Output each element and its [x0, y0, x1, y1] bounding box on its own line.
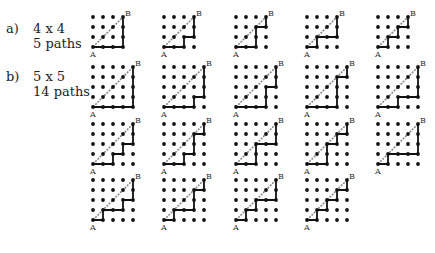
- grid-dot: [202, 218, 206, 222]
- grid-dot: [315, 45, 319, 49]
- grid-dot: [264, 105, 268, 109]
- grid-dot: [315, 95, 319, 99]
- grid-dot: [406, 152, 410, 156]
- start-point-label: A: [232, 223, 239, 232]
- grid-dot: [234, 122, 238, 126]
- grid-dot: [406, 132, 410, 136]
- lattice-grid-b-6: AB: [90, 121, 146, 177]
- grid-dot: [162, 95, 166, 99]
- grid-dot: [325, 15, 329, 19]
- grid-dot: [274, 95, 278, 99]
- grid-dot: [202, 75, 206, 79]
- grid-dot: [325, 35, 329, 39]
- grid-dot: [406, 45, 410, 49]
- grid-dot: [234, 25, 238, 29]
- grid-dot: [376, 75, 380, 79]
- grid-dot: [315, 162, 319, 166]
- grid-dot: [111, 35, 115, 39]
- grid-dot: [182, 178, 186, 182]
- grid-dot: [396, 132, 400, 136]
- grid-dot: [111, 122, 115, 126]
- grid-dot: [305, 142, 309, 146]
- grid-dot: [254, 208, 258, 212]
- grid-dot: [315, 35, 319, 39]
- grid-dot: [111, 105, 115, 109]
- grid-dot: [172, 178, 176, 182]
- grid-dot: [182, 188, 186, 192]
- grid-dot: [131, 142, 135, 146]
- grid-dot: [172, 188, 176, 192]
- start-point-label: A: [160, 110, 167, 119]
- grid-dot: [121, 218, 125, 222]
- grid-dot: [254, 218, 258, 222]
- grid-dot: [182, 122, 186, 126]
- grid-dot: [325, 105, 329, 109]
- grid-dot: [172, 152, 176, 156]
- grid-dot: [91, 142, 95, 146]
- grid-dot: [305, 25, 309, 29]
- grid-dot: [416, 105, 420, 109]
- grid-dot: [416, 95, 420, 99]
- grid-dot: [335, 142, 339, 146]
- grid-dot: [325, 122, 329, 126]
- grid-dot: [91, 65, 95, 69]
- start-point-label: A: [303, 167, 310, 176]
- grid-dot: [244, 35, 248, 39]
- grid-dot: [192, 95, 196, 99]
- grid-dot: [345, 198, 349, 202]
- end-point-label: B: [349, 172, 355, 181]
- grid-dot: [376, 122, 380, 126]
- grid-dot: [111, 45, 115, 49]
- grid-dot: [111, 198, 115, 202]
- diagonal-line: [164, 17, 194, 47]
- grid-dot: [91, 198, 95, 202]
- grid-dot: [305, 45, 309, 49]
- grid-dot: [396, 25, 400, 29]
- grid-dot: [325, 142, 329, 146]
- grid-dot: [376, 25, 380, 29]
- grid-dot: [244, 132, 248, 136]
- lattice-grid-b-7: AB: [161, 121, 217, 177]
- grid-dot: [386, 152, 390, 156]
- grid-dot: [254, 25, 258, 29]
- grid-dot: [305, 218, 309, 222]
- grid-dot: [101, 95, 105, 99]
- lattice-grid-b-4: AB: [304, 64, 360, 120]
- diagonal-line: [93, 17, 123, 47]
- grid-dot: [101, 65, 105, 69]
- grid-dot: [192, 218, 196, 222]
- grid-dot: [101, 142, 105, 146]
- start-point-label: A: [160, 167, 167, 176]
- grid-dot: [121, 142, 125, 146]
- grid-dot: [264, 178, 268, 182]
- grid-dot: [182, 132, 186, 136]
- lattice-grid-a-1: AB: [90, 14, 136, 60]
- part-b-tag: b): [6, 69, 19, 84]
- grid-dot: [254, 152, 258, 156]
- grid-dot: [386, 65, 390, 69]
- grid-dot: [396, 15, 400, 19]
- grid-dot: [234, 142, 238, 146]
- grid-dot: [192, 208, 196, 212]
- grid-dot: [101, 132, 105, 136]
- grid-dot: [202, 208, 206, 212]
- grid-dot: [91, 218, 95, 222]
- part-b-path-count: 14 paths: [33, 84, 90, 99]
- grid-dot: [274, 152, 278, 156]
- grid-dot: [111, 65, 115, 69]
- grid-dot: [101, 122, 105, 126]
- grid-dot: [131, 85, 135, 89]
- start-point-label: A: [303, 223, 310, 232]
- grid-dot: [202, 162, 206, 166]
- grid-dot: [335, 188, 339, 192]
- grid-dot: [234, 105, 238, 109]
- grid-dot: [234, 65, 238, 69]
- grid-dot: [121, 208, 125, 212]
- grid-dot: [182, 45, 186, 49]
- grid-dot: [396, 75, 400, 79]
- grid-dot: [305, 105, 309, 109]
- grid-dot: [264, 198, 268, 202]
- diagonal-line: [307, 17, 337, 47]
- grid-dot: [162, 218, 166, 222]
- grid-dot: [202, 142, 206, 146]
